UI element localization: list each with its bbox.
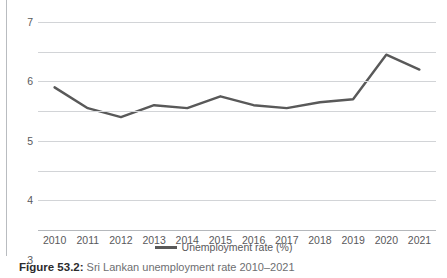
plot-area: 01234567 — [38, 22, 436, 230]
gridline-y-4: 4 — [38, 111, 436, 112]
figure-caption-number: Figure 53.2: — [19, 261, 84, 273]
legend-line-swatch-icon — [155, 246, 177, 249]
gridline-y-2: 2 — [38, 171, 436, 172]
legend-item-unemployment-rate: Unemployment rate (%) — [155, 242, 293, 253]
figure-caption: Figure 53.2: Sri Lankan unemployment rat… — [19, 259, 439, 275]
gridline-y-7: 7 — [38, 22, 436, 23]
y-axis-tick-6: 6 — [27, 76, 33, 87]
top-clipped-text: · · · · — [32, 0, 262, 2]
gridline-y-1: 1 — [38, 200, 436, 201]
line-chart: 01234567 2010201120122013201420152016201… — [0, 8, 447, 240]
gridline-y-5: 5 — [38, 81, 436, 82]
figure-page: · · · · 01234567 20102011201220132014201… — [0, 0, 447, 278]
y-axis-tick-4: 4 — [27, 195, 33, 206]
legend-item-label: Unemployment rate (%) — [182, 242, 293, 253]
gridline-y-3: 3 — [38, 141, 436, 142]
gridline-y-6: 6 — [38, 52, 436, 53]
series-line-unemployment-rate — [55, 55, 420, 117]
figure-caption-text: Sri Lankan unemployment rate 2010–2021 — [84, 261, 295, 273]
chart-legend: Unemployment rate (%) — [0, 240, 447, 254]
series-unemployment-rate — [38, 22, 436, 230]
y-axis-tick-5: 5 — [27, 136, 33, 147]
x-axis-baseline: 0 — [38, 230, 436, 231]
y-axis-tick-7: 7 — [27, 17, 33, 28]
